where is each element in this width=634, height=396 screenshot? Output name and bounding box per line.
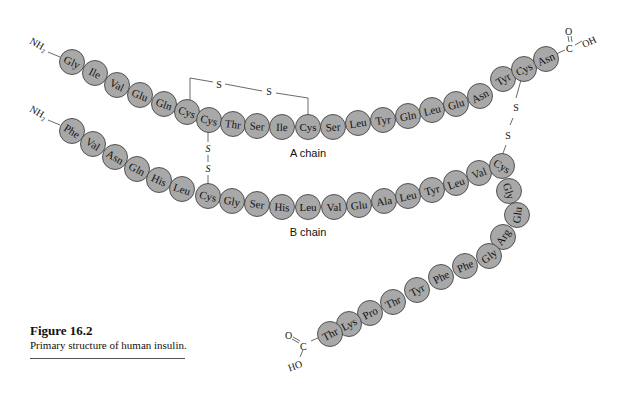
disulfide-s-label-3: S	[206, 143, 211, 154]
residue-label: Cys	[299, 121, 316, 133]
b_chain-residue-19: Cys	[490, 154, 515, 179]
disulfide-s-label-1: S	[216, 79, 222, 90]
b_chain-residue-10: His	[270, 195, 295, 220]
disulfide-a11-bracket-right	[276, 93, 308, 117]
a_chain-residue-5: Gln	[152, 92, 177, 117]
insulin-diagram: GlyIleValGluGlnCysCysThrSerIleCysSerLeuT…	[0, 0, 634, 396]
b_chain-residue-15: Leu	[396, 184, 421, 209]
residue-label: Tyr	[375, 113, 392, 127]
b_chain-residue-14: Ala	[372, 189, 397, 214]
disulfide-s-label-2: S	[266, 86, 272, 97]
a-chain-residues: GlyIleValGluGlnCysCysThrSerIleCysSerLeuT…	[60, 47, 559, 140]
a_chain-residue-14: Tyr	[371, 108, 396, 133]
a_chain-residue-17: Glu	[444, 92, 469, 117]
disulfide-a6-bracket-left	[190, 78, 213, 102]
disulfide-a20-b19-middle	[510, 118, 513, 125]
a_chain-residue-1: Gly	[60, 50, 85, 75]
b_chain-residue-6: Leu	[170, 177, 195, 202]
b-chain-hydroxyl-ho: HO	[286, 358, 303, 373]
b_chain-residue-30: Thr	[318, 322, 343, 347]
a_chain-residue-12: Ser	[321, 115, 346, 140]
disulfide-s-label-5: S	[513, 102, 519, 113]
b_chain-residue-13: Glu	[347, 193, 372, 218]
a_chain-residue-16: Leu	[420, 98, 445, 123]
b-chain-label: B chain	[290, 226, 327, 238]
residue-label: Thr	[224, 117, 242, 131]
b_chain-residue-11: Leu	[296, 195, 321, 220]
b_chain-residue-17: Leu	[444, 171, 469, 196]
b_chain-residue-18: Val	[467, 161, 492, 186]
a_chain-residue-13: Leu	[346, 111, 371, 136]
a_chain-residue-2: Ile	[83, 61, 108, 86]
figure-caption: Figure 16.2 Primary structure of human i…	[30, 323, 190, 359]
residue-label: Glu	[350, 198, 368, 212]
b_chain-residue-16: Tyr	[420, 178, 445, 203]
b_chain-residue-5: His	[147, 168, 172, 193]
figure-caption-text: Primary structure of human insulin.	[30, 339, 190, 352]
a-chain-carboxyl-c: C	[566, 43, 573, 54]
a_chain-residue-9: Ser	[245, 114, 270, 139]
figure-title: Figure 16.2	[30, 323, 190, 339]
residue-label: Ile	[276, 121, 288, 133]
residue-label: Leu	[299, 201, 317, 213]
b_chain-residue-8: Gly	[220, 189, 245, 214]
b_chain-residue-9: Ser	[245, 192, 270, 217]
b_chain-residue-7: Cys	[196, 184, 221, 209]
b_chain-residue-27: Thr	[381, 290, 406, 315]
residue-label: Leu	[349, 116, 368, 130]
a_chain-residue-6: Cys	[175, 100, 200, 125]
b_chain-residue-21: Glu	[505, 203, 530, 228]
b_chain-residue-26: Tyr	[405, 278, 430, 303]
b_chain-residue-1: Phe	[60, 119, 85, 144]
b-chain-carboxyl-c: C	[300, 341, 307, 352]
a_chain-residue-8: Thr	[221, 112, 246, 137]
a_chain-residue-21: Asn	[534, 47, 559, 72]
a-chain-n-terminus-bond	[48, 52, 60, 57]
disulfide-s-label-6: S	[505, 130, 511, 141]
residue-label: Val	[326, 201, 341, 214]
a-chain-hydroxyl-oh: OH	[580, 34, 598, 50]
caption-rule	[30, 356, 185, 359]
disulfide-a6-a11-middle	[225, 84, 262, 91]
b_chain-residue-3: Asn	[103, 145, 128, 170]
b-chain-nh2-label: NH₂	[28, 103, 49, 121]
b_chain-residue-4: Gln	[125, 157, 150, 182]
a_chain-residue-15: Gln	[396, 104, 421, 129]
a_chain-residue-11: Cys	[296, 115, 321, 140]
disulfide-s-label-4: S	[206, 163, 211, 174]
a_chain-residue-18: Asn	[468, 84, 493, 109]
a_chain-residue-4: Glu	[128, 83, 153, 108]
residue-label: Ser	[249, 197, 265, 211]
residue-label: Glu	[510, 206, 524, 224]
b_chain-residue-25: Phe	[429, 265, 454, 290]
residue-label: Ser	[249, 120, 265, 133]
a-chain-label: A chain	[290, 147, 326, 159]
b_chain-residue-23: Gly	[477, 244, 502, 269]
b_chain-residue-2: Val	[81, 132, 106, 157]
a-chain-carbonyl-o: O	[565, 26, 572, 37]
b_chain-residue-20: Gly	[497, 179, 522, 204]
b-chain-carbonyl-o: O	[285, 330, 292, 341]
a_chain-residue-10: Ile	[270, 115, 295, 140]
residue-label: Ser	[325, 120, 341, 133]
disulfide-a20-b19-top	[516, 80, 521, 98]
a_chain-residue-7: Cys	[197, 108, 222, 133]
a_chain-residue-20: Cys	[512, 57, 537, 82]
residue-label: His	[274, 201, 290, 214]
b-chain-n-terminus-bond	[48, 120, 60, 125]
b_chain-residue-12: Val	[322, 195, 347, 220]
a-chain-nh2-label: NH₂	[28, 35, 49, 53]
b_chain-residue-24: Phe	[453, 254, 478, 279]
a_chain-residue-3: Val	[105, 73, 130, 98]
